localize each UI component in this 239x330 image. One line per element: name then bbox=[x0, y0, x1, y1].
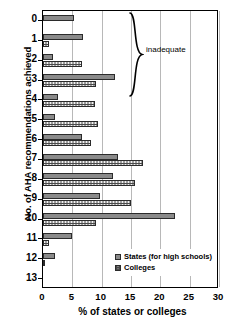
inadequate-annotation-label: inadequate bbox=[146, 45, 186, 54]
bar-states-3 bbox=[43, 74, 115, 80]
chart-legend: States (for high schools)Colleges bbox=[112, 249, 215, 276]
bar-states-0 bbox=[43, 15, 74, 21]
bar-colleges-5 bbox=[43, 121, 98, 127]
legend-swatch-states-icon bbox=[115, 254, 121, 260]
bar-colleges-8 bbox=[43, 180, 135, 186]
y-tick-label: 2 bbox=[22, 54, 37, 64]
bar-states-11 bbox=[43, 233, 72, 239]
bar-states-2 bbox=[43, 54, 53, 60]
bar-states-5 bbox=[43, 114, 55, 120]
y-tick-label: 3 bbox=[22, 74, 37, 84]
legend-item-states: States (for high schools) bbox=[115, 251, 212, 262]
bar-states-10 bbox=[43, 213, 175, 219]
bar-states-9 bbox=[43, 193, 100, 199]
y-tick-label: 1 bbox=[22, 34, 37, 44]
x-tick-label: 10 bbox=[89, 291, 113, 302]
y-tick-label: 5 bbox=[22, 114, 37, 124]
y-tick-label: 10 bbox=[22, 213, 37, 223]
gridline bbox=[72, 11, 73, 287]
bar-colleges-10 bbox=[43, 220, 96, 226]
bar-colleges-2 bbox=[43, 61, 82, 67]
legend-swatch-colleges-icon bbox=[115, 265, 121, 271]
y-tick-label: 13 bbox=[22, 273, 37, 283]
y-tick-label: 0 bbox=[22, 14, 37, 24]
x-tick-label: 0 bbox=[30, 291, 54, 302]
bar-states-12 bbox=[43, 253, 55, 259]
y-tick-label: 12 bbox=[22, 253, 37, 263]
bar-colleges-12 bbox=[43, 260, 45, 266]
legend-label: Colleges bbox=[124, 262, 155, 273]
bar-chart: No. of AHA recommendations achieved 0123… bbox=[0, 0, 239, 330]
gridline bbox=[190, 11, 191, 287]
y-tick-label: 6 bbox=[22, 134, 37, 144]
legend-item-colleges: Colleges bbox=[115, 262, 212, 273]
bar-states-1 bbox=[43, 34, 83, 40]
x-tick-label: 30 bbox=[206, 291, 230, 302]
y-tick-label: 7 bbox=[22, 153, 37, 163]
curly-brace-icon bbox=[128, 12, 144, 97]
bar-states-4 bbox=[43, 94, 58, 100]
bar-colleges-7 bbox=[43, 160, 143, 166]
x-axis-title: % of states or colleges bbox=[30, 306, 235, 317]
bar-colleges-9 bbox=[43, 200, 131, 206]
y-tick-label: 4 bbox=[22, 94, 37, 104]
bar-states-7 bbox=[43, 154, 118, 160]
bar-colleges-3 bbox=[43, 81, 96, 87]
y-tick-label: 8 bbox=[22, 173, 37, 183]
bar-states-8 bbox=[43, 173, 113, 179]
gridline bbox=[219, 11, 220, 287]
bar-colleges-4 bbox=[43, 101, 95, 107]
bar-states-6 bbox=[43, 134, 82, 140]
legend-label: States (for high schools) bbox=[124, 251, 212, 262]
bar-colleges-1 bbox=[43, 41, 49, 47]
bar-colleges-11 bbox=[43, 240, 49, 246]
y-tick-label: 9 bbox=[22, 193, 37, 203]
x-tick-label: 15 bbox=[118, 291, 142, 302]
y-tick-label: 11 bbox=[22, 233, 37, 243]
x-tick-label: 20 bbox=[147, 291, 171, 302]
x-tick-label: 25 bbox=[177, 291, 201, 302]
x-tick-label: 5 bbox=[59, 291, 83, 302]
gridline bbox=[102, 11, 103, 287]
bar-colleges-6 bbox=[43, 140, 91, 146]
